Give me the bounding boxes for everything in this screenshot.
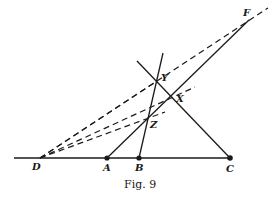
point-C [227, 155, 233, 161]
dashed-D-Y [40, 81, 157, 158]
label-Z: Z [149, 119, 158, 130]
line-A-F [107, 20, 249, 158]
dashed-D-Z [40, 112, 165, 158]
label-B: B [134, 162, 143, 173]
label-F: F [242, 7, 251, 18]
point-A [104, 155, 109, 160]
figure-caption: Fig. 9 [124, 178, 156, 191]
label-X: X [175, 93, 185, 104]
label-C: C [226, 163, 234, 174]
line-B-up [139, 53, 163, 158]
line-C-up [137, 61, 230, 158]
label-A: A [102, 162, 111, 173]
label-D: D [31, 161, 41, 172]
point-B [136, 155, 141, 160]
geometry-figure: D A B C F Y X Z Fig. 9 [0, 0, 275, 203]
label-Y: Y [161, 72, 169, 83]
